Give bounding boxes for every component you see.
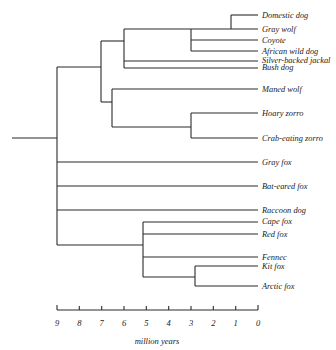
axis-tick-label: 5	[144, 318, 148, 328]
leaf-label: Cape fox	[262, 217, 292, 226]
axis-tick-label: 8	[77, 318, 82, 328]
leaf-label: Gray wolf	[262, 25, 297, 34]
leaf-label: Bush dog	[262, 63, 293, 72]
leaf-label: Domestic dog	[261, 11, 308, 20]
leaf-label: African wild dog	[261, 47, 318, 56]
leaf-label: Gray fox	[262, 158, 292, 167]
leaf-label: Coyote	[262, 36, 286, 45]
axis-tick-label: 4	[167, 318, 172, 328]
leaf-label: Maned wolf	[261, 85, 303, 94]
leaf-label: Crab-eating zorro	[262, 134, 323, 143]
axis-tick-label: 9	[55, 318, 60, 328]
axis-tick-label: 7	[100, 318, 105, 328]
leaf-label: Hoary zorro	[261, 109, 303, 118]
time-axis: 9 8 7 6 5 4 3 2 1 0 million years	[55, 305, 261, 346]
axis-title: million years	[135, 336, 180, 346]
leaf-label: Red fox	[261, 230, 288, 239]
leaf-label: Arctic fox	[261, 282, 295, 291]
phylogenetic-tree: Domestic dog Gray wolf Coyote African wi…	[0, 0, 336, 350]
leaf-labels: Domestic dog Gray wolf Coyote African wi…	[261, 11, 331, 291]
leaf-label: Bat-eared fox	[262, 182, 308, 191]
axis-tick-label: 1	[234, 318, 238, 328]
axis-tick-label: 0	[256, 318, 261, 328]
leaf-label: Fennec	[261, 253, 287, 262]
leaf-label: Kit fox	[261, 262, 285, 271]
axis-tick-label: 3	[188, 318, 193, 328]
axis-tick-label: 2	[211, 318, 216, 328]
axis-tick-label: 6	[122, 318, 127, 328]
tree-branches	[12, 15, 258, 286]
leaf-label: Raccoon dog	[261, 206, 306, 215]
